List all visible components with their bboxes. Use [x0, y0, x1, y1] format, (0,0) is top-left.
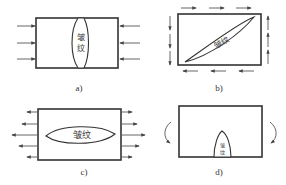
panel-c: 皱纹 c) — [12, 109, 145, 177]
panel-a: 皱 纹 a) — [17, 18, 140, 93]
compression-arrows-left-a — [17, 26, 35, 59]
crack-label-c: 皱纹 — [73, 129, 91, 140]
panel-label-c: c) — [81, 167, 88, 177]
crack-label-a-line1: 皱 — [77, 32, 85, 42]
panel-d: 皱 纹 d) — [165, 106, 276, 177]
tension-arrows-left-c — [12, 112, 37, 157]
wrinkle-crack-a — [72, 18, 89, 68]
crack-label-a-line2: 纹 — [77, 43, 85, 53]
wrinkle-loading-diagram: 皱 纹 a) 皱纹 — [0, 0, 286, 185]
tension-arrows-right-c — [122, 112, 145, 157]
panel-b: 皱纹 b) — [170, 8, 268, 93]
bending-arrow-left-d — [165, 122, 171, 143]
crack-label-d-line2: 纹 — [220, 149, 225, 156]
panel-label-d: d) — [215, 167, 223, 177]
panel-label-a: a) — [76, 83, 83, 93]
compression-arrows-right-a — [120, 26, 140, 59]
bending-arrow-right-d — [270, 122, 276, 143]
panel-label-b: b) — [215, 83, 223, 93]
